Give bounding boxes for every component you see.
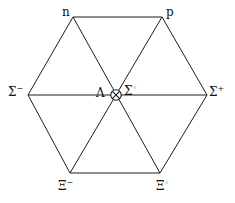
hexagon-figure xyxy=(0,0,235,203)
label-sigma-plus-superscript: + xyxy=(217,84,224,93)
label-sigma-plus: Σ+ xyxy=(209,86,224,98)
edge-sigmaminus-n xyxy=(28,17,73,95)
label-sigma-minus: Σ− xyxy=(8,86,23,98)
center-crossed-circle-icon xyxy=(111,90,121,100)
edge-ximinus-sigmaminus xyxy=(28,95,70,173)
label-proton: p xyxy=(166,6,174,18)
edge-p-sigmaplus xyxy=(162,17,207,95)
label-neutron: n xyxy=(62,6,70,18)
label-sigma-minus-superscript: − xyxy=(16,84,23,93)
label-sigma-zero-superscript: ◦ xyxy=(132,83,137,92)
label-xi-zero: Ξ◦ xyxy=(156,180,169,192)
label-lambda: Λ xyxy=(96,87,105,99)
label-xi-zero-superscript: ◦ xyxy=(164,178,169,187)
edge-sigmaplus-xi0 xyxy=(160,95,207,173)
label-xi-minus-superscript: − xyxy=(66,178,73,187)
baryon-octet-diagram: n p Σ− Σ+ Ξ− Ξ◦ Λ Σ◦ xyxy=(0,0,235,203)
label-sigma-zero: Σ◦ xyxy=(124,85,137,97)
label-xi-minus: Ξ− xyxy=(58,180,73,192)
